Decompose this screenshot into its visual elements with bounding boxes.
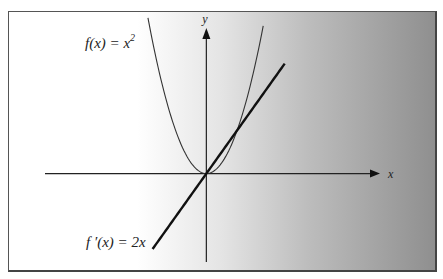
x-axis-label: x (387, 167, 394, 181)
series-derivative-line (153, 64, 285, 249)
chart-svg: x y f(x) = x2 f ′(x) = 2x (0, 0, 443, 279)
series-parabola (148, 18, 263, 174)
parabola-annotation: f(x) = x2 (85, 32, 135, 52)
x-axis-arrow-icon (370, 170, 380, 178)
y-axis-label: y (201, 12, 208, 26)
derivative-annotation: f ′(x) = 2x (86, 234, 146, 251)
y-axis-arrow-icon (202, 28, 210, 39)
